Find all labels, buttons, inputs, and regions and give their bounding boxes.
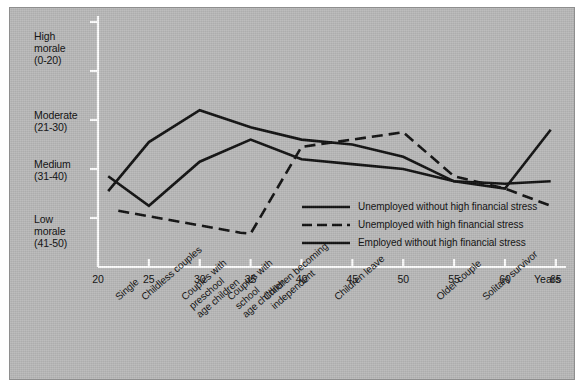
series-group <box>108 110 551 234</box>
legend-label-0: Unemployed without high financial stress <box>358 201 537 212</box>
line-chart-canvas <box>10 8 574 379</box>
chart-figure: High morale (0-20) Moderate (21-30) Medi… <box>9 7 575 380</box>
legend-label-1: Unemployed with high financial stress <box>358 219 523 230</box>
legend-label-2: Employed without high financial stress <box>358 237 526 248</box>
legend-swatches <box>302 207 350 243</box>
series-line-0 <box>108 110 551 191</box>
x-axis-unit-label: Years <box>534 273 560 285</box>
y-band-label-high: High morale (0-20) <box>34 30 66 66</box>
y-band-label-low: Low morale (41-50) <box>34 213 67 249</box>
y-band-label-medium: Medium (31-40) <box>34 158 71 182</box>
series-line-2 <box>108 140 551 206</box>
y-band-label-moderate: Moderate (21-30) <box>34 109 78 133</box>
y-axis-ticks <box>90 22 98 218</box>
x-tick-label-50: 50 <box>397 273 408 285</box>
x-tick-label-20: 20 <box>92 273 103 285</box>
